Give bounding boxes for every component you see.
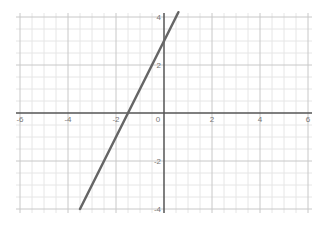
x-tick-label: -6 xyxy=(16,115,24,124)
y-tick-label: 4 xyxy=(157,13,162,22)
x-tick-label: 0 xyxy=(156,115,161,124)
y-tick-label: -2 xyxy=(154,157,162,166)
x-tick-label: 2 xyxy=(210,115,215,124)
x-tick-label: -4 xyxy=(64,115,72,124)
graph-plot: -6-4-2024642-2-4 xyxy=(0,0,323,228)
y-tick-label: -4 xyxy=(154,205,162,214)
y-tick-label: 2 xyxy=(157,61,162,70)
x-tick-label: 4 xyxy=(258,115,263,124)
x-tick-label: 6 xyxy=(306,115,311,124)
x-tick-label: -2 xyxy=(112,115,120,124)
